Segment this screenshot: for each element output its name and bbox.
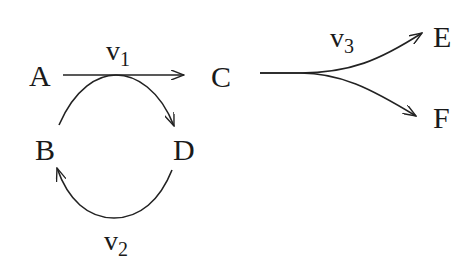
label-v3: v3 <box>330 22 354 57</box>
node-a: A <box>29 59 51 92</box>
node-e: E <box>433 20 451 53</box>
node-c: C <box>211 60 231 93</box>
label-v1: v1 <box>106 35 130 70</box>
node-f: F <box>433 101 450 134</box>
graph-diagram: A B C D E F v1 v2 v3 <box>0 0 476 272</box>
edge-d-to-b <box>57 168 172 218</box>
edge-b-to-d <box>59 75 174 126</box>
edge-c-to-f <box>260 73 416 116</box>
node-d: D <box>173 133 195 166</box>
label-v2: v2 <box>104 225 128 260</box>
node-b: B <box>35 133 55 166</box>
